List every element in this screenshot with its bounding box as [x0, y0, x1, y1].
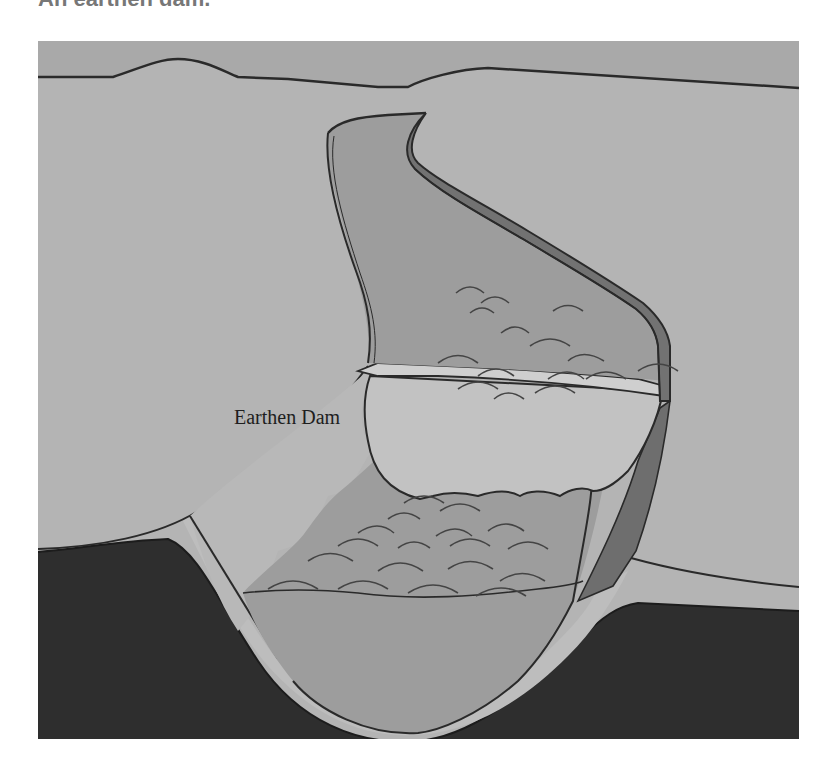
figure-caption: An earthen dam.	[38, 0, 210, 12]
earthen-dam-diagram: Earthen Dam	[38, 41, 799, 739]
earthen-dam-label: Earthen Dam	[234, 406, 340, 429]
